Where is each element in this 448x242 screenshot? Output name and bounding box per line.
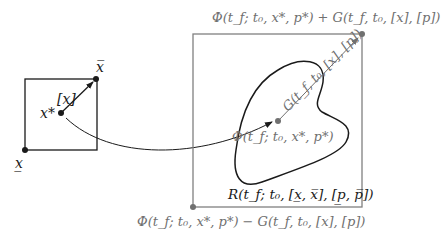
upper-enclosure-label: Φ(t_f; t₀, x*, p*) + G(t_f, t₀, [x], [p]… — [212, 10, 440, 25]
nominal-image-label: Φ(t_f; t₀, x*, p*) — [232, 129, 333, 144]
upper-bound-point — [93, 76, 99, 82]
upper-bound-label: x̅ — [96, 59, 104, 75]
lower-bound-point — [22, 147, 28, 153]
initial-interval-box — [22, 76, 99, 153]
g-radius-label: G(t_f, t₀, [x], [p]) — [279, 26, 365, 114]
reachable-set-region — [235, 61, 349, 184]
enclosure-lower-point — [190, 204, 196, 210]
reachability-diagram: x̅ x̲ [x] x* G(t_f, t₀, [x], [p]) Φ(t_f;… — [0, 0, 448, 242]
lower-bound-label: x̲ — [14, 155, 23, 172]
interval-label: [x] — [57, 91, 76, 107]
reachable-set-label: R(t_f; t₀, [x̲, x̅], [p̲, p̅]) — [227, 186, 373, 205]
lower-enclosure-label: Φ(t_f; t₀, x*, p*) − G(t_f, t₀, [x], [p]… — [137, 214, 365, 229]
nominal-point-label: x* — [40, 105, 55, 121]
